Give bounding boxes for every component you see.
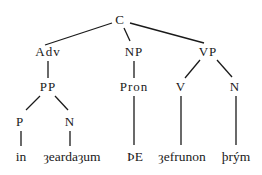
node-n-prep-phrase: N — [65, 114, 75, 130]
node-c: C — [115, 12, 125, 28]
edge-pp-n — [55, 96, 68, 110]
leaf-word-the: ÞE — [127, 149, 143, 165]
edge-c-np — [124, 28, 130, 41]
node-v: V — [176, 79, 186, 95]
node-p: P — [16, 114, 24, 130]
node-np: NP — [125, 44, 144, 60]
edge-pp-p — [26, 96, 40, 110]
edge-c-vp — [130, 23, 204, 43]
node-pp: PP — [40, 79, 56, 95]
leaf-word-geardagum: ȝeardaȝum — [43, 149, 100, 165]
edge-vp-v — [185, 60, 200, 78]
edge-vp-n — [217, 60, 232, 77]
node-n-verb-phrase: N — [230, 79, 240, 95]
leaf-word-gefrunon: ȝefrunon — [158, 149, 205, 165]
leaf-word-thrym: þrým — [222, 149, 251, 165]
node-adv: Adv — [35, 44, 60, 60]
leaf-word-in: in — [16, 149, 27, 165]
node-vp: VP — [199, 44, 218, 60]
edge-c-adv — [45, 23, 112, 45]
node-pron: Pron — [120, 79, 149, 95]
